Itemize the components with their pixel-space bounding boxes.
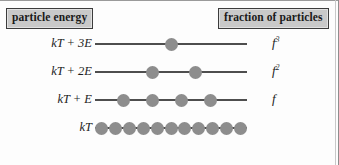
particle-dot bbox=[123, 122, 136, 135]
particle-dot bbox=[146, 94, 159, 107]
fraction-label: f3 bbox=[272, 35, 279, 51]
fraction-label: f bbox=[272, 91, 276, 107]
particle-dot bbox=[192, 122, 205, 135]
boltzmann-distribution-figure: particle energy fraction of particles kT… bbox=[0, 0, 339, 165]
particle-dot bbox=[175, 94, 188, 107]
particle-dot bbox=[117, 94, 130, 107]
particle-dot bbox=[206, 122, 219, 135]
fraction-exponent: 3 bbox=[276, 35, 280, 44]
frame-top-border bbox=[0, 0, 339, 1]
energy-level-row: kT + Ef bbox=[0, 92, 339, 120]
particle-dot bbox=[137, 122, 150, 135]
header-label-particle-energy: particle energy bbox=[6, 8, 93, 29]
particle-dot bbox=[151, 122, 164, 135]
particle-dot bbox=[95, 122, 108, 135]
particle-dot bbox=[146, 66, 159, 79]
energy-level-label: kT + E bbox=[0, 92, 92, 106]
particle-dot bbox=[220, 122, 233, 135]
energy-level-label: kT bbox=[0, 120, 92, 134]
energy-level-row: kT + 2Ef2 bbox=[0, 64, 339, 92]
particle-dot bbox=[204, 94, 217, 107]
header-label-fraction-of-particles: fraction of particles bbox=[218, 8, 329, 29]
energy-level-label: kT + 3E bbox=[0, 36, 92, 50]
energy-level-row: kT + 3Ef3 bbox=[0, 36, 339, 64]
fraction-label: f2 bbox=[272, 63, 279, 79]
energy-level-label: kT + 2E bbox=[0, 64, 92, 78]
particle-dot bbox=[178, 122, 191, 135]
particle-dot bbox=[165, 38, 178, 51]
fraction-exponent: 2 bbox=[276, 63, 280, 72]
particle-dot bbox=[189, 66, 202, 79]
energy-level-line bbox=[95, 71, 247, 73]
particle-dot bbox=[109, 122, 122, 135]
particle-dot bbox=[165, 122, 178, 135]
particle-dot bbox=[234, 122, 247, 135]
energy-level-row: kT bbox=[0, 120, 339, 148]
